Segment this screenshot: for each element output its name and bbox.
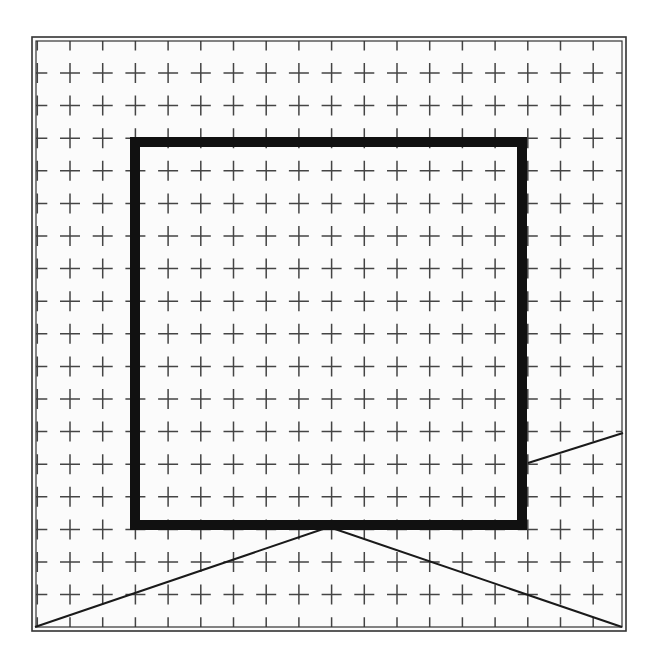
diagram-canvas — [0, 0, 662, 671]
